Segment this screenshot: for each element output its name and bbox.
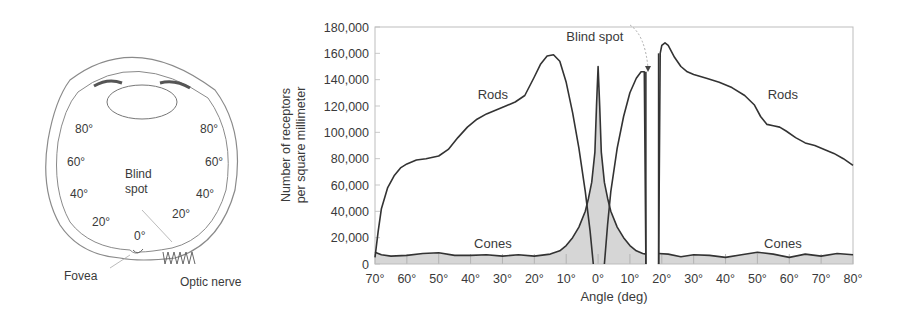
receptor-density-chart: 020,00040,00060,00080,000100,000120,0001… — [270, 0, 905, 321]
x-tick-label: 40° — [461, 272, 480, 286]
y-axis-title-line1: Number of receptors — [279, 88, 293, 202]
y-tick-label: 160,000 — [324, 47, 369, 61]
x-tick-label: 70° — [812, 272, 831, 286]
x-tick-label: 60° — [780, 272, 799, 286]
y-tick-label: 100,000 — [324, 126, 369, 140]
chart-annotations: RodsRodsConesConesBlind spot — [474, 29, 802, 251]
y-tick-label: 180,000 — [324, 21, 369, 35]
x-tick-label: 20° — [525, 272, 544, 286]
x-tick-label: 0° — [592, 272, 604, 286]
eye-label-left-40: 40° — [70, 187, 88, 201]
y-tick-label: 80,000 — [331, 152, 369, 166]
rods-line — [659, 43, 853, 264]
rods-line — [375, 55, 593, 264]
eye-label-right-20: 20° — [172, 207, 190, 221]
annotation-rods: Rods — [478, 87, 509, 102]
blind-spot-arrow — [630, 25, 648, 68]
y-tick-label: 0 — [362, 258, 369, 272]
x-tick-label: 30° — [493, 272, 512, 286]
eye-label-left-60: 60° — [67, 155, 85, 169]
cones-fill — [375, 67, 646, 265]
x-axis-title: Angle (deg) — [580, 289, 647, 304]
eye-label-fovea: Fovea — [64, 269, 98, 283]
eye-label-blind-spot-2: spot — [125, 182, 148, 196]
annotation-cones: Cones — [764, 236, 802, 251]
lens — [107, 85, 177, 119]
iris-right — [160, 82, 190, 88]
eye-label-right-60: 60° — [205, 155, 223, 169]
y-tick-label: 20,000 — [331, 231, 369, 245]
x-tick-label: 80° — [844, 272, 863, 286]
blind-spot-gap — [647, 60, 658, 265]
cones-fill — [659, 252, 853, 264]
x-axis-tick-labels: 70°60°50°40°30°20°10°0°10°20°30°40°50°60… — [366, 272, 863, 286]
eye-label-right-80: 80° — [200, 122, 218, 136]
x-tick-label: 60° — [397, 272, 416, 286]
x-tick-label: 20° — [652, 272, 671, 286]
y-axis-title-line2: per square millimeter — [294, 87, 308, 204]
x-tick-label: 70° — [366, 272, 385, 286]
y-tick-label: 40,000 — [331, 205, 369, 219]
iris-left — [94, 81, 122, 86]
y-tick-label: 120,000 — [324, 100, 369, 114]
x-tick-label: 50° — [429, 272, 448, 286]
y-tick-label: 140,000 — [324, 73, 369, 87]
eye-label-left-80: 80° — [75, 122, 93, 136]
optic-nerve — [163, 252, 195, 264]
y-axis-tick-labels: 020,00040,00060,00080,000100,000120,0001… — [324, 21, 369, 272]
annotation-blind-spot: Blind spot — [566, 29, 623, 44]
eye-label-center-0: 0° — [134, 229, 146, 243]
blind-spot-leader — [142, 210, 172, 242]
eye-cross-section-diagram: 80° 60° 40° 20° 80° 60° 40° 20° 0° Blind… — [0, 0, 270, 321]
y-tick-label: 60,000 — [331, 179, 369, 193]
x-tick-label: 30° — [684, 272, 703, 286]
eye-label-blind-spot-1: Blind — [125, 167, 152, 181]
eye-label-left-20: 20° — [92, 215, 110, 229]
x-tick-label: 40° — [716, 272, 735, 286]
eye-label-optic-nerve: Optic nerve — [180, 275, 242, 289]
annotation-cones: Cones — [474, 236, 512, 251]
x-tick-label: 50° — [748, 272, 767, 286]
annotation-rods: Rods — [768, 87, 799, 102]
x-tick-label: 10° — [557, 272, 576, 286]
x-tick-label: 10° — [620, 272, 639, 286]
eye-label-right-40: 40° — [196, 187, 214, 201]
